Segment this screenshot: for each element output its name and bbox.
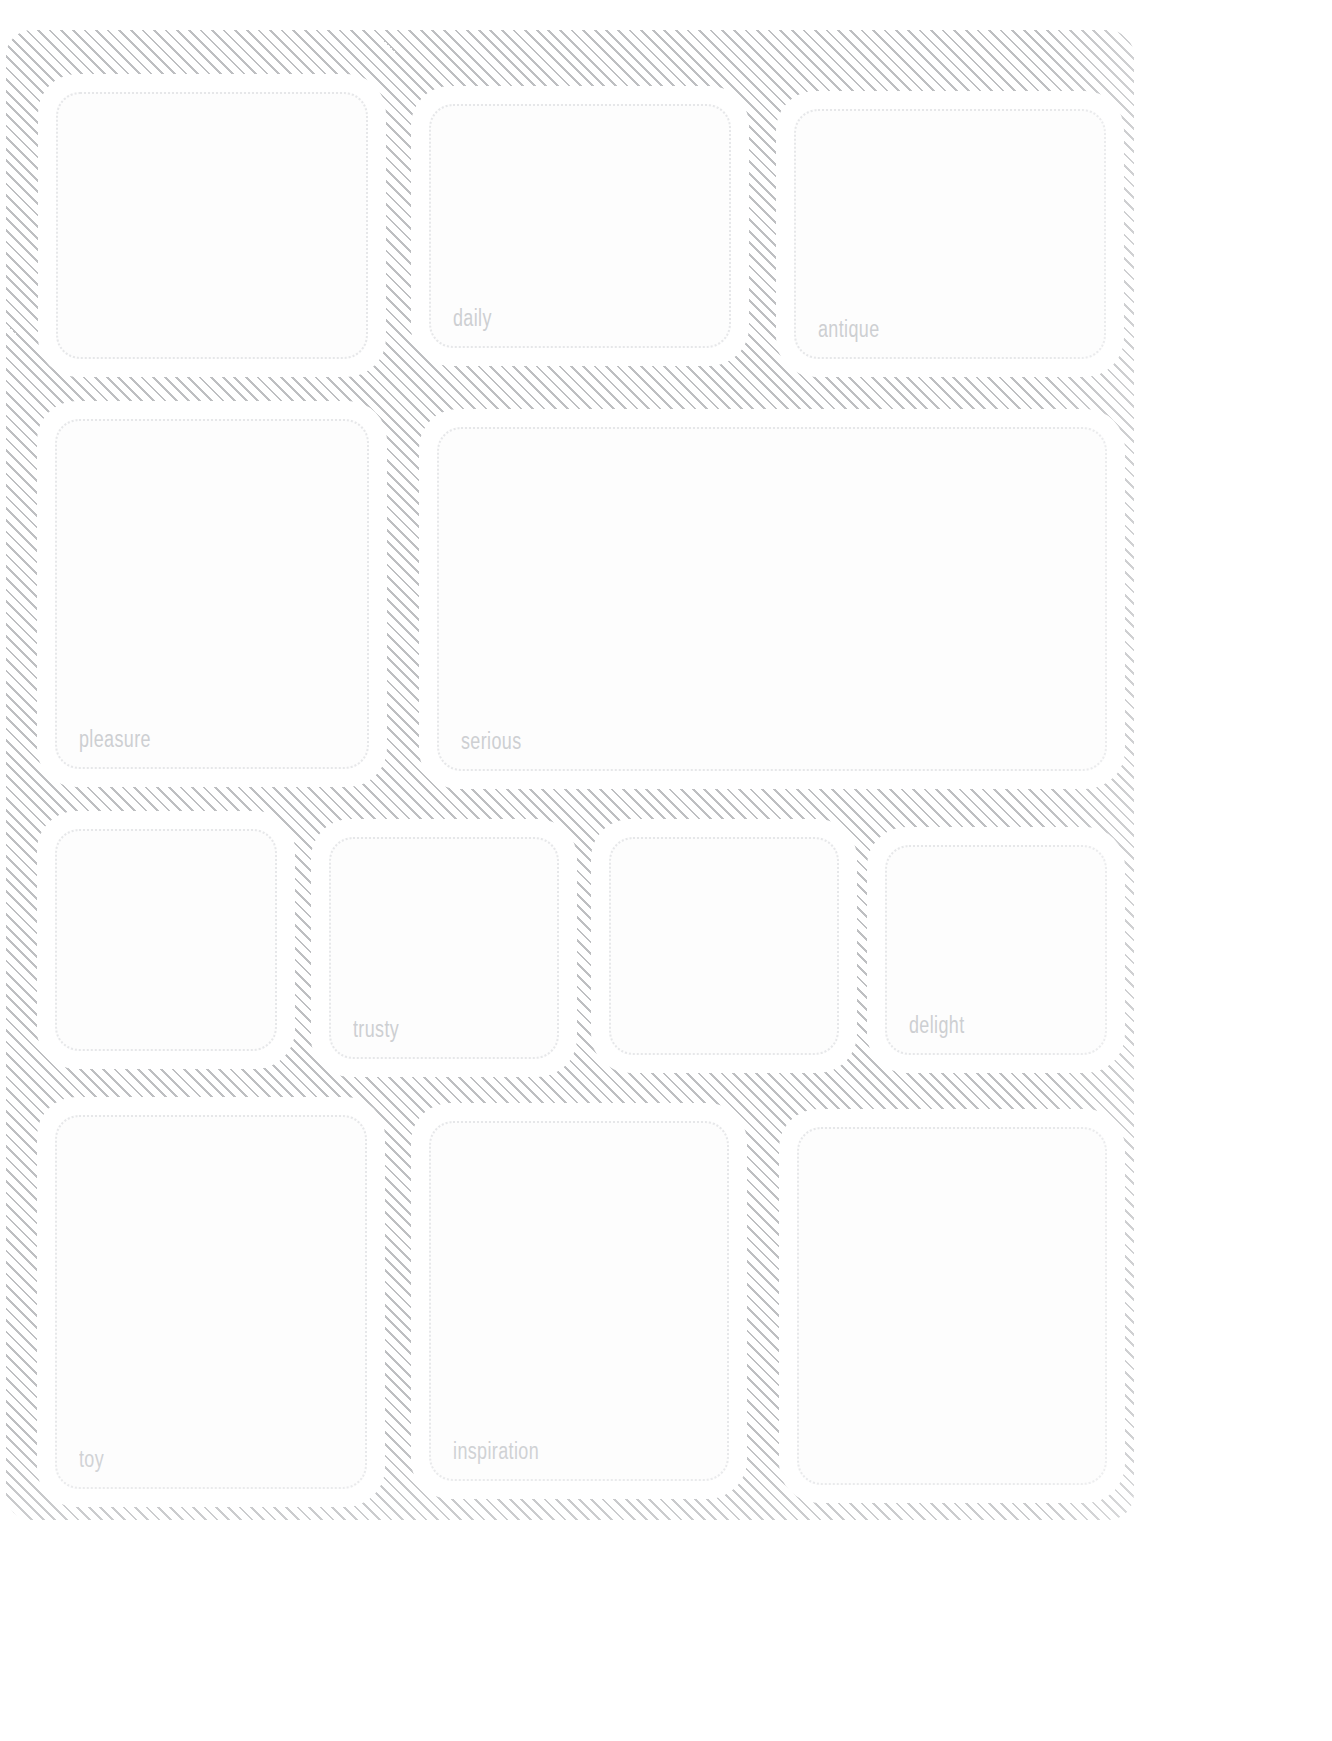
wireframe-card[interactable] [788,1118,1116,1494]
wireframe-card[interactable]: inspiration [420,1112,738,1490]
card-dotted-frame: antique [794,109,1106,359]
card-label: antique [818,318,880,341]
wireframe-card[interactable]: antique [785,100,1115,368]
card-dotted-frame: serious [437,427,1107,771]
wireframe-card[interactable]: daily [420,95,740,357]
wireframe-card[interactable]: trusty [320,828,568,1068]
card-dotted-frame [56,92,368,359]
wireframe-card[interactable]: delight [876,836,1116,1064]
card-label: daily [453,307,492,330]
card-dotted-frame [797,1127,1107,1485]
card-label: delight [909,1014,965,1037]
wireframe-card[interactable]: serious [428,418,1116,780]
card-dotted-frame [55,829,277,1051]
card-label: inspiration [453,1440,539,1463]
card-dotted-frame: toy [55,1115,367,1489]
wireframe-card[interactable] [47,83,377,368]
card-dotted-frame: daily [429,104,731,348]
card-dotted-frame: trusty [329,837,559,1059]
wireframe-card[interactable] [600,828,848,1064]
card-label: serious [461,730,522,753]
wireframe-canvas: dailyantiquepleasureserioustrustydelight… [0,0,1332,1741]
card-label: pleasure [79,728,151,751]
wireframe-card[interactable]: pleasure [46,410,378,778]
card-dotted-frame: inspiration [429,1121,729,1481]
card-dotted-frame: pleasure [55,419,369,769]
wireframe-card[interactable]: toy [46,1106,376,1498]
card-dotted-frame [609,837,839,1055]
card-label: toy [79,1448,104,1471]
card-dotted-frame: delight [885,845,1107,1055]
card-label: trusty [353,1018,399,1041]
wireframe-card[interactable] [46,820,286,1060]
